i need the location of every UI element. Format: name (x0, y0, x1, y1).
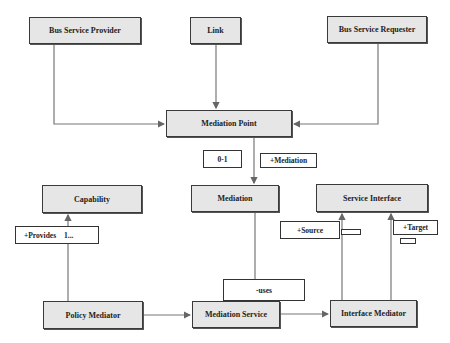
class-policy-mediator[interactable]: Policy Mediator (43, 301, 143, 329)
class-name: Policy Mediator (66, 311, 121, 320)
class-capability[interactable]: Capability (42, 185, 142, 213)
multiplicity-text: 0-1 (218, 155, 228, 164)
class-service-interface[interactable]: Service Interface (316, 184, 428, 212)
role-text: +Source (297, 226, 323, 235)
role-text: -uses (256, 286, 272, 295)
class-name: Mediation (217, 194, 252, 203)
source-multiplicity-box (341, 229, 361, 235)
role-label-provides: +Provides 1... (15, 226, 99, 244)
class-name: Capability (74, 195, 110, 204)
class-name: Link (207, 26, 223, 35)
class-bus-service-provider[interactable]: Bus Service Provider (29, 17, 141, 44)
class-interface-mediator[interactable]: Interface Mediator (330, 300, 417, 327)
class-name: Bus Service Requester (339, 25, 415, 34)
role-label-source: +Source (280, 221, 340, 239)
class-name: Mediation Point (201, 119, 256, 128)
role-label-uses: -uses (223, 279, 305, 301)
class-mediation[interactable]: Mediation (191, 185, 279, 212)
role-text: +Provides (24, 231, 56, 240)
multiplicity-label-0-1: 0-1 (203, 150, 242, 168)
multiplicity-text: 1... (64, 231, 73, 240)
class-bus-service-requester[interactable]: Bus Service Requester (327, 16, 427, 43)
class-mediation-point[interactable]: Mediation Point (166, 110, 292, 137)
class-name: Mediation Service (205, 310, 267, 319)
role-label-mediation: +Mediation (260, 153, 317, 168)
role-text: +Target (403, 223, 428, 232)
target-multiplicity-box (400, 238, 416, 244)
role-label-target: +Target (393, 220, 438, 235)
class-mediation-service[interactable]: Mediation Service (192, 301, 280, 328)
class-name: Interface Mediator (341, 309, 406, 318)
role-text: +Mediation (270, 156, 307, 165)
class-link[interactable]: Link (190, 17, 241, 44)
class-name: Service Interface (343, 194, 401, 203)
class-name: Bus Service Provider (49, 26, 121, 35)
